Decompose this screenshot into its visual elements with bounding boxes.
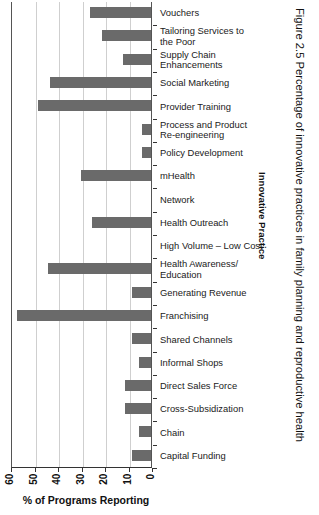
- bar: [90, 7, 151, 18]
- bar-series: [12, 2, 151, 467]
- category-label: Health Awareness/ Education: [160, 259, 270, 280]
- category-labels: VouchersTailoring Services to the PoorSu…: [157, 2, 269, 468]
- category-label: Cross-Subsidization: [160, 404, 270, 415]
- x-axis-tick-label: 50: [28, 474, 42, 485]
- bar-row: [12, 375, 151, 398]
- bar-row: [12, 445, 151, 468]
- category-tick: [153, 165, 157, 166]
- category-tick: [153, 375, 157, 376]
- x-axis-tick: [11, 468, 12, 472]
- x-axis-tick: [129, 468, 130, 472]
- bar-row: [12, 72, 151, 95]
- bar: [139, 426, 151, 437]
- x-axis-tick-label: 30: [75, 474, 89, 485]
- bar-row: [12, 282, 151, 305]
- x-axis-tick: [82, 468, 83, 472]
- category-tick: [153, 282, 157, 283]
- bar-row: [12, 49, 151, 72]
- category-label: Capital Funding: [160, 451, 270, 462]
- bar-row: [12, 165, 151, 188]
- category-tick: [153, 25, 157, 26]
- bar: [50, 77, 151, 88]
- bar: [17, 310, 151, 321]
- category-tick: [153, 468, 157, 469]
- bar: [81, 170, 152, 181]
- bar-row: [12, 142, 151, 165]
- category-tick: [153, 72, 157, 73]
- category-tick: [153, 235, 157, 236]
- category-label: Tailoring Services to the Poor: [160, 26, 270, 47]
- bar: [38, 100, 151, 111]
- category-label: Provider Training: [160, 102, 270, 113]
- bar: [102, 30, 151, 41]
- x-axis-tick-label: 10: [122, 474, 136, 485]
- category-label: Social Marketing: [160, 78, 270, 89]
- category-tick: [153, 328, 157, 329]
- category-tick: [153, 258, 157, 259]
- bar: [139, 357, 151, 368]
- bar: [142, 147, 151, 158]
- bar-row: [12, 95, 151, 118]
- x-axis-tick-label: 40: [51, 474, 65, 485]
- x-axis-tick: [58, 468, 59, 472]
- category-label: Vouchers: [160, 8, 270, 19]
- y-axis-title: Innovative Practice: [257, 172, 268, 312]
- x-axis-tick: [35, 468, 36, 472]
- bar-row: [12, 235, 151, 258]
- x-axis-tick-label: 60: [4, 474, 18, 485]
- category-label: Supply Chain Enhancements: [160, 50, 270, 71]
- x-axis-tick-label: 20: [98, 474, 112, 485]
- category-tick: [153, 119, 157, 120]
- bar-row: [12, 212, 151, 235]
- category-tick: [153, 305, 157, 306]
- bar-row: [12, 2, 151, 25]
- category-label: Health Outreach: [160, 218, 270, 229]
- category-tick: [153, 445, 157, 446]
- bar-row: [12, 258, 151, 281]
- category-label: Franchising: [160, 311, 270, 322]
- x-axis-title: % of Programs Reporting: [6, 494, 166, 506]
- bar: [142, 124, 151, 135]
- bar: [92, 217, 151, 228]
- category-label: mHealth: [160, 171, 270, 182]
- bar: [132, 287, 151, 298]
- category-label: Direct Sales Force: [160, 381, 270, 392]
- category-label: Process and Product Re-engineering: [160, 120, 270, 141]
- x-axis-tick: [105, 468, 106, 472]
- category-tick: [153, 188, 157, 189]
- category-tick: [153, 49, 157, 50]
- bar: [125, 403, 151, 414]
- bar: [132, 333, 151, 344]
- bar-row: [12, 305, 151, 328]
- bar-row: [12, 421, 151, 444]
- bar-row: [12, 398, 151, 421]
- bar: [125, 380, 151, 391]
- category-label: High Volume – Low Cost: [160, 241, 270, 252]
- chart-plot-area: [11, 2, 152, 468]
- category-tick: [153, 212, 157, 213]
- bar-row: [12, 25, 151, 48]
- category-tick: [153, 95, 157, 96]
- category-tick: [153, 352, 157, 353]
- category-label: Shared Channels: [160, 335, 270, 346]
- category-label: Generating Revenue: [160, 288, 270, 299]
- category-tick: [153, 398, 157, 399]
- category-tick: [153, 142, 157, 143]
- category-label: Chain: [160, 428, 270, 439]
- bar: [132, 450, 151, 461]
- bar-row: [12, 352, 151, 375]
- bar-row: [12, 328, 151, 351]
- category-label: Informal Shops: [160, 358, 270, 369]
- bar: [48, 263, 151, 274]
- figure-root: 6050403020100 % of Programs Reporting Vo…: [0, 0, 319, 515]
- bar-row: [12, 119, 151, 142]
- bar-row: [12, 188, 151, 211]
- category-tick: [153, 421, 157, 422]
- category-label: Network: [160, 195, 270, 206]
- bar: [123, 54, 151, 65]
- x-axis-tick-label: 0: [145, 474, 159, 479]
- category-label: Policy Development: [160, 148, 270, 159]
- figure-caption: Figure 2.5 Percentage of innovative prac…: [294, 8, 306, 513]
